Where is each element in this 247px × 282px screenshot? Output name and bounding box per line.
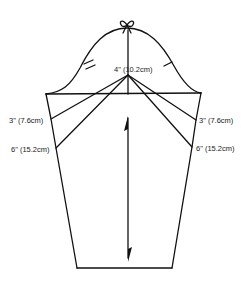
slash-line-left-3 (51, 75, 128, 119)
grainline-arrow-down-icon (128, 247, 132, 262)
grainline-arrow-up-icon (124, 116, 128, 131)
sleeve-cap-curve (46, 28, 201, 94)
left-lower-label: 6" (15.2cm) (11, 145, 50, 154)
biceps-line (46, 93, 201, 94)
front-notch (164, 62, 172, 66)
right-lower-label: 6" (15.2cm) (196, 144, 235, 153)
back-double-notch (84, 60, 95, 69)
left-upper-label: 3" (7.6cm) (9, 116, 44, 125)
right-underarm-seam (172, 93, 201, 268)
right-upper-label: 3" (7.6cm) (199, 116, 234, 125)
sleeve-pattern-diagram: 4" (10.2cm) 3" (7.6cm) 6" (15.2cm) 3" (7… (0, 0, 247, 282)
cap-height-label: 4" (10.2cm) (114, 65, 153, 74)
left-underarm-seam (46, 94, 77, 268)
shoulder-bow-icon (120, 21, 133, 33)
